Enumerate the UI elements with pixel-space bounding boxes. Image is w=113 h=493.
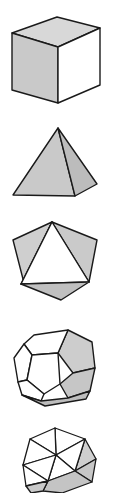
cube-illustration	[0, 14, 113, 106]
octahedron-illustration	[0, 216, 113, 306]
dodecahedron-illustration	[0, 322, 113, 412]
octahedron-face-bottom	[21, 282, 89, 300]
dodecahedron-face-right-lower	[60, 368, 95, 398]
icosahedron-illustration	[0, 424, 113, 493]
platonic-solids-figure	[0, 0, 113, 493]
tetrahedron-illustration	[0, 124, 113, 202]
